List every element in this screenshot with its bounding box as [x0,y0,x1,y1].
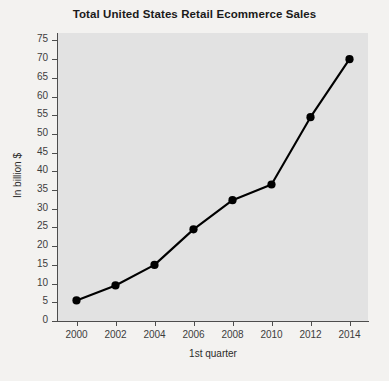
y-tick-label: 75 [37,33,48,44]
y-tick-mark [52,284,57,285]
x-tick-label: 2006 [172,329,216,340]
x-tick-mark [311,321,312,326]
x-tick-mark [155,321,156,326]
y-tick-label: 15 [37,258,48,269]
y-tick-label: 20 [37,239,48,250]
y-tick-label: 30 [37,202,48,213]
x-tick-label: 2000 [55,329,99,340]
x-axis-spine [57,321,369,322]
x-tick-label: 2008 [211,329,255,340]
y-tick-label: 0 [42,314,48,325]
x-tick-mark [194,321,195,326]
x-tick-mark [116,321,117,326]
y-tick-label: 60 [37,90,48,101]
x-tick-mark [350,321,351,326]
x-axis-title: 1st quarter [58,348,368,359]
y-tick-mark [52,59,57,60]
x-tick-mark [272,321,273,326]
y-tick-label: 10 [37,277,48,288]
y-tick-label: 50 [37,127,48,138]
y-tick-label: 5 [42,295,48,306]
y-tick-label: 40 [37,164,48,175]
y-tick-mark [52,321,57,322]
y-tick-mark [52,246,57,247]
plot-area-background [58,33,368,321]
y-axis-title: In billion $ [12,126,23,226]
y-tick-mark [52,171,57,172]
x-tick-label: 2014 [328,329,372,340]
x-tick-mark [233,321,234,326]
y-tick-label: 70 [37,52,48,63]
y-tick-mark [52,78,57,79]
x-tick-label: 2010 [250,329,294,340]
y-tick-label: 25 [37,220,48,231]
y-tick-label: 65 [37,71,48,82]
chart-title: Total United States Retail Ecommerce Sal… [0,8,389,20]
x-tick-label: 2012 [289,329,333,340]
y-tick-mark [52,209,57,210]
y-axis-spine [57,33,58,322]
y-tick-mark [52,115,57,116]
y-tick-mark [52,97,57,98]
y-tick-mark [52,40,57,41]
y-tick-label: 55 [37,108,48,119]
y-tick-mark [52,227,57,228]
y-tick-label: 45 [37,146,48,157]
y-tick-mark [52,153,57,154]
x-tick-label: 2004 [133,329,177,340]
x-tick-label: 2002 [94,329,138,340]
y-tick-mark [52,190,57,191]
x-tick-mark [77,321,78,326]
y-tick-mark [52,265,57,266]
y-tick-label: 35 [37,183,48,194]
y-tick-mark [52,302,57,303]
chart-figure: Total United States Retail Ecommerce Sal… [0,0,389,381]
y-tick-mark [52,134,57,135]
